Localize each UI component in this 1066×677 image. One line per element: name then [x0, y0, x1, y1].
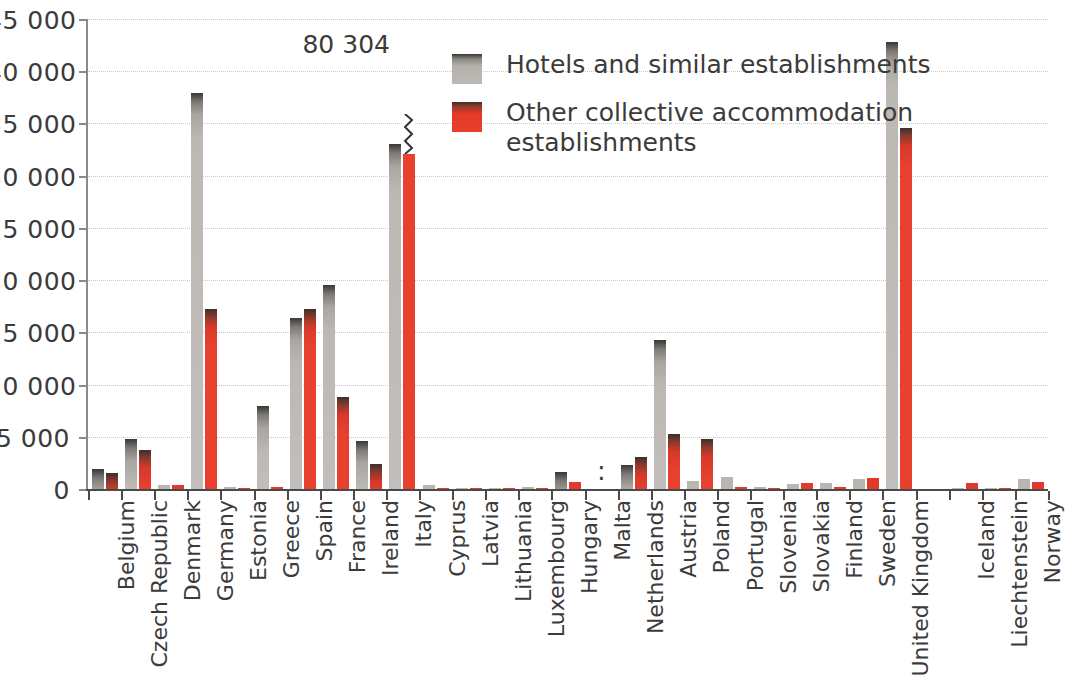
- x-axis-label-sweden: Sweden: [875, 500, 900, 587]
- legend-swatch-hotels-icon: [452, 54, 482, 84]
- x-axis-tick-mark: [88, 491, 90, 500]
- x-axis-tick-mark: [750, 491, 752, 500]
- y-axis-tick-mark: [79, 176, 88, 178]
- x-axis-label-greece: Greece: [279, 500, 304, 578]
- legend-item-other: Other collective accommodation establish…: [452, 98, 972, 157]
- x-axis-tick-mark: [154, 491, 156, 500]
- x-axis-label-austria: Austria: [676, 500, 701, 578]
- x-axis-tick-mark: [849, 491, 851, 500]
- y-axis-tick-mark: [79, 332, 88, 334]
- x-axis-label-iceland: Iceland: [974, 500, 999, 580]
- y-axis-tick-label: 35 000: [0, 110, 70, 139]
- bar-hotels: [389, 144, 401, 490]
- y-axis-tick-label: 15 000: [0, 319, 70, 348]
- missing-data-marker: :: [597, 456, 606, 486]
- x-axis-label-netherlands: Netherlands: [643, 500, 668, 634]
- value-annotation: 80 304: [302, 30, 389, 59]
- x-axis-tick-mark: [419, 491, 421, 500]
- bar-hotels: [92, 469, 104, 490]
- y-axis-tick-label: 0: [0, 476, 70, 505]
- x-axis-line: [86, 489, 1048, 491]
- x-axis-label-germany: Germany: [213, 500, 238, 601]
- x-axis-tick-mark: [916, 491, 918, 500]
- legend-label-other: Other collective accommodation establish…: [506, 98, 972, 157]
- bar-group: [88, 20, 121, 490]
- x-axis-tick-mark: [882, 491, 884, 500]
- bar-other: [635, 457, 647, 490]
- bar-other: [900, 128, 912, 490]
- x-axis-tick-mark: [585, 491, 587, 500]
- y-axis-tick-mark: [79, 280, 88, 282]
- x-axis-label-united-kingdom: United Kingdom: [908, 500, 933, 677]
- chart-legend: Hotels and similar establishments Other …: [452, 50, 972, 171]
- bar-group: [154, 20, 187, 490]
- x-axis-tick-mark: [121, 491, 123, 500]
- legend-swatch-other-icon: [452, 102, 482, 132]
- x-axis-tick-mark: [783, 491, 785, 500]
- x-axis-label-slovenia: Slovenia: [776, 500, 801, 594]
- x-axis-label-estonia: Estonia: [246, 500, 271, 581]
- x-axis-tick-mark: [684, 491, 686, 500]
- bar-group: [220, 20, 253, 490]
- x-axis-label-malta: Malta: [610, 500, 635, 561]
- bar-group: [982, 20, 1015, 490]
- x-axis-label-spain: Spain: [312, 500, 337, 561]
- y-axis-tick-label: 10 000: [0, 371, 70, 400]
- bar-group: [254, 20, 287, 490]
- x-axis-tick-mark: [485, 491, 487, 500]
- x-axis-label-lithuania: Lithuania: [511, 500, 536, 602]
- y-axis-tick-mark: [79, 123, 88, 125]
- y-axis-tick-mark: [79, 385, 88, 387]
- x-axis-tick-mark: [353, 491, 355, 500]
- bar-group: [1015, 20, 1048, 490]
- x-axis-tick-mark: [320, 491, 322, 500]
- bar-other: [701, 439, 713, 490]
- bar-group: [353, 20, 386, 490]
- bar-group: [121, 20, 154, 490]
- x-axis-tick-mark: [452, 491, 454, 500]
- x-axis-tick-mark: [187, 491, 189, 500]
- x-axis-label-czech-republic: Czech Republic: [147, 500, 172, 668]
- bar-hotels: [356, 441, 368, 490]
- bar-hotels: [191, 93, 203, 490]
- x-axis-label-liechtenstein: Liechtenstein: [1007, 500, 1032, 648]
- x-axis-tick-mark: [287, 491, 289, 500]
- x-axis-label-slovakia: Slovakia: [809, 500, 834, 592]
- x-axis-tick-mark: [717, 491, 719, 500]
- x-axis-tick-mark: [386, 491, 388, 500]
- bar-other: [106, 473, 118, 490]
- bar-hotels: [323, 285, 335, 490]
- x-axis-label-denmark: Denmark: [180, 500, 205, 601]
- y-axis-tick-label: 5 000: [0, 423, 70, 452]
- y-axis-tick-mark: [79, 437, 88, 439]
- bar-group: [187, 20, 220, 490]
- y-axis-tick-label: 25 000: [0, 214, 70, 243]
- bar-group: [287, 20, 320, 490]
- x-axis-tick-mark: [651, 491, 653, 500]
- x-axis-tick-mark: [1015, 491, 1017, 500]
- x-axis-tick-mark: [254, 491, 256, 500]
- y-axis-tick-mark: [79, 71, 88, 73]
- bar-hotels: [621, 465, 633, 490]
- bar-other: [205, 309, 217, 490]
- x-axis-label-france: France: [345, 500, 370, 573]
- x-axis-label-norway: Norway: [1040, 500, 1065, 583]
- bar-other: [304, 309, 316, 490]
- x-axis-label-cyprus: Cyprus: [445, 500, 470, 577]
- bar-group: [386, 20, 419, 490]
- x-axis-label-finland: Finland: [842, 500, 867, 579]
- bar-other: [403, 114, 415, 490]
- x-axis-label-ireland: Ireland: [378, 500, 403, 576]
- legend-item-hotels: Hotels and similar establishments: [452, 50, 972, 84]
- x-axis-label-poland: Poland: [709, 500, 734, 573]
- y-axis-tick-mark: [79, 19, 88, 21]
- x-axis-tick-mark: [982, 491, 984, 500]
- y-axis-tick-label: 40 000: [0, 58, 70, 87]
- bar-other: [337, 397, 349, 490]
- axis-break-zigzag-icon: [400, 114, 418, 154]
- x-axis-tick-mark: [618, 491, 620, 500]
- x-axis-tick-mark: [220, 491, 222, 500]
- x-axis-label-portugal: Portugal: [743, 500, 768, 591]
- bar-hotels: [290, 318, 302, 490]
